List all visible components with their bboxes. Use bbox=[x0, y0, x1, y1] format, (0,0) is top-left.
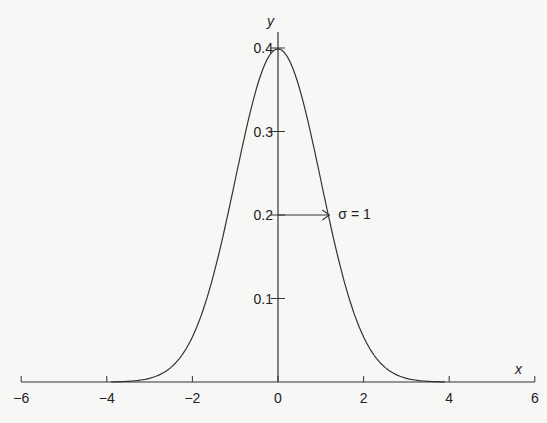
y-tick-label: 0.1 bbox=[254, 291, 274, 307]
x-tick-label: 4 bbox=[445, 390, 453, 406]
sigma-annotation: σ = 1 bbox=[278, 206, 371, 222]
x-axis-label: x bbox=[514, 361, 523, 377]
y-tick-label: 0.3 bbox=[254, 124, 274, 140]
x-tick-label: 6 bbox=[531, 390, 539, 406]
chart-container: −6−4−202460.10.20.30.4 σ = 1 x y bbox=[0, 0, 547, 423]
x-tick-label: −2 bbox=[184, 390, 200, 406]
y-tick-label: 0.2 bbox=[254, 207, 274, 223]
sigma-label: σ = 1 bbox=[338, 206, 371, 222]
x-tick-label: −6 bbox=[13, 390, 29, 406]
axes: −6−4−202460.10.20.30.4 bbox=[13, 32, 539, 406]
x-tick-label: 0 bbox=[274, 390, 282, 406]
y-axis-label: y bbox=[266, 13, 275, 29]
normal-distribution-chart: −6−4−202460.10.20.30.4 σ = 1 x y bbox=[0, 0, 547, 423]
x-tick-label: 2 bbox=[360, 390, 368, 406]
x-tick-label: −4 bbox=[99, 390, 115, 406]
